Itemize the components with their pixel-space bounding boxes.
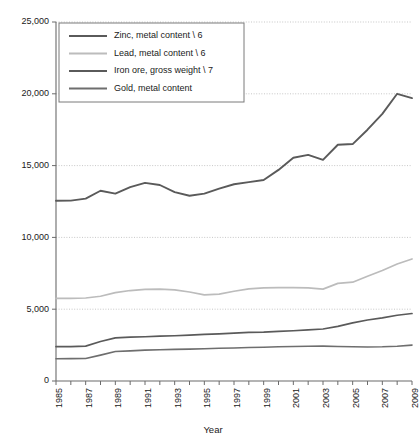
series-line [56, 314, 412, 347]
legend-label: Lead, metal content \ 6 [114, 48, 206, 58]
x-tick-label: 2009 [410, 388, 420, 408]
y-tick-label: 25,000 [21, 16, 49, 26]
x-tick-label: 2007 [380, 388, 390, 408]
x-axis-title: Year [203, 424, 222, 435]
y-tick-label: 15,000 [21, 160, 49, 170]
line-chart: 05,00010,00015,00020,00025,000 198519871… [0, 0, 420, 445]
y-tick-label: 10,000 [21, 232, 49, 242]
x-tick-label: 2003 [321, 388, 331, 408]
x-tick-label: 1985 [54, 388, 64, 408]
series-line [56, 259, 412, 298]
series-line [56, 345, 412, 359]
y-axis: 05,00010,00015,00020,00025,000 [21, 16, 56, 385]
x-tick-label: 1995 [202, 388, 212, 408]
y-tick-label: 20,000 [21, 88, 49, 98]
legend-label: Iron ore, gross weight \ 7 [114, 65, 213, 75]
legend-label: Gold, metal content [114, 83, 193, 93]
legend-label: Zinc, metal content \ 6 [114, 30, 203, 40]
x-tick-label: 2001 [291, 388, 301, 408]
x-tick-label: 2005 [351, 388, 361, 408]
chart-svg: 05,00010,00015,00020,00025,000 198519871… [0, 0, 420, 445]
plot-series [56, 94, 412, 359]
x-tick-label: 1989 [113, 388, 123, 408]
x-tick-label: 1991 [143, 388, 153, 408]
x-tick-label: 1997 [232, 388, 242, 408]
x-axis: 1985198719891991199319951997199920012003… [54, 381, 420, 408]
series-line [56, 94, 412, 201]
y-tick-label: 5,000 [26, 304, 49, 314]
x-tick-label: 1993 [173, 388, 183, 408]
x-tick-label: 1987 [84, 388, 94, 408]
x-tick-label: 1999 [262, 388, 272, 408]
y-tick-label: 0 [44, 375, 49, 385]
legend: Zinc, metal content \ 6Lead, metal conte… [59, 23, 244, 102]
